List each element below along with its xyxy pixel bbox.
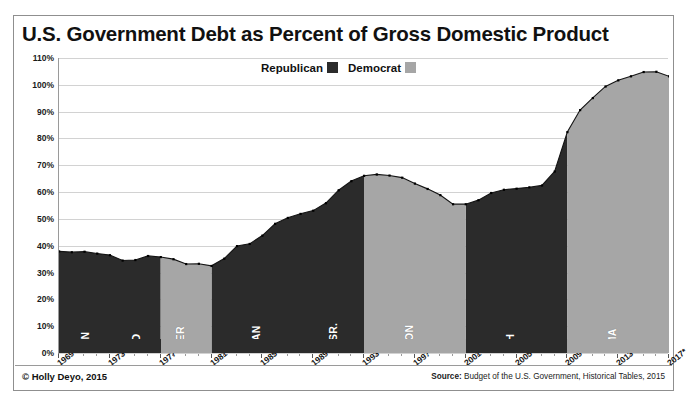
x-axis-minor-tick	[71, 354, 72, 356]
y-axis-tick-label: 60%	[14, 187, 54, 197]
data-point-marker	[122, 259, 124, 261]
data-point-marker	[566, 131, 568, 133]
y-axis-tick-label: 20%	[14, 294, 54, 304]
party-strip-democrat	[161, 339, 212, 353]
x-axis-minor-tick	[427, 354, 428, 356]
x-axis-minor-tick	[630, 354, 631, 356]
x-axis-minor-tick	[554, 354, 555, 356]
data-point-marker	[630, 75, 632, 77]
data-point-marker	[452, 203, 454, 205]
x-axis-minor-tick	[287, 354, 288, 356]
x-axis-minor-tick	[338, 354, 339, 356]
data-point-marker	[655, 71, 657, 73]
y-axis-tick-label: 50%	[14, 214, 54, 224]
x-axis-minor-tick	[350, 354, 351, 356]
data-point-marker	[604, 85, 606, 87]
x-axis-minor-tick	[655, 354, 656, 356]
party-strip-republican	[466, 339, 568, 353]
y-axis-tick-label: 40%	[14, 241, 54, 251]
data-point-marker	[427, 188, 429, 190]
data-point-marker	[147, 255, 149, 257]
data-point-marker	[617, 79, 619, 81]
data-point-marker	[388, 174, 390, 176]
x-axis-minor-tick	[490, 354, 491, 356]
data-point-marker	[465, 203, 467, 205]
data-point-marker	[325, 202, 327, 204]
data-point-marker	[312, 210, 314, 212]
data-point-marker	[211, 265, 213, 267]
y-axis-tick-label: 70%	[14, 160, 54, 170]
data-point-marker	[338, 189, 340, 191]
data-point-marker	[579, 109, 581, 111]
data-point-marker	[350, 180, 352, 182]
x-axis-minor-tick	[388, 354, 389, 356]
party-strip-republican	[123, 339, 161, 353]
source-label: Source:	[431, 372, 461, 381]
data-point-marker	[185, 263, 187, 265]
footer-divider	[15, 365, 672, 366]
data-point-marker	[490, 192, 492, 194]
data-point-marker	[223, 258, 225, 260]
data-point-marker	[414, 183, 416, 185]
data-point-marker	[554, 170, 556, 172]
x-axis-minor-tick	[96, 354, 97, 356]
y-axis-tick-label: 10%	[14, 321, 54, 331]
data-point-marker	[299, 213, 301, 215]
data-point-marker	[83, 251, 85, 253]
x-axis-minor-tick	[274, 354, 275, 356]
x-axis-minor-tick	[579, 354, 580, 356]
y-axis-tick-label: 0%	[14, 348, 54, 358]
data-point-marker	[516, 188, 518, 190]
data-point-marker	[261, 235, 263, 237]
data-point-marker	[668, 75, 669, 77]
x-axis-minor-tick	[236, 354, 237, 356]
copyright-text: © Holly Deyo, 2015	[22, 371, 107, 382]
data-point-marker	[249, 243, 251, 245]
data-point-marker	[643, 71, 645, 73]
data-point-marker	[172, 258, 174, 260]
x-axis-minor-tick	[83, 354, 84, 356]
data-point-marker	[376, 173, 378, 175]
party-strip-democrat	[364, 339, 466, 353]
x-axis-minor-tick	[541, 354, 542, 356]
x-axis-minor-tick	[223, 354, 224, 356]
data-point-marker	[592, 97, 594, 99]
party-strip-republican	[313, 339, 364, 353]
x-axis-minor-tick	[401, 354, 402, 356]
data-point-marker	[274, 223, 276, 225]
x-axis-minor-tick	[528, 354, 529, 356]
data-point-marker	[287, 217, 289, 219]
x-axis-minor-tick	[503, 354, 504, 356]
data-point-marker	[541, 184, 543, 186]
party-strip-republican	[212, 339, 314, 353]
data-point-marker	[363, 175, 365, 177]
data-point-marker	[71, 251, 73, 253]
x-axis-minor-tick	[477, 354, 478, 356]
data-point-marker	[96, 253, 98, 255]
y-axis-tick-label: 110%	[14, 53, 54, 63]
data-point-marker	[401, 177, 403, 179]
y-axis-tick-label: 80%	[14, 133, 54, 143]
x-axis-minor-tick	[299, 354, 300, 356]
x-axis-minor-tick	[439, 354, 440, 356]
x-axis-minor-tick	[604, 354, 605, 356]
x-axis-minor-tick	[452, 354, 453, 356]
chart-title: U.S. Government Debt as Percent of Gross…	[22, 22, 667, 46]
data-point-marker	[134, 259, 136, 261]
data-point-marker	[109, 254, 111, 256]
x-axis-minor-tick	[147, 354, 148, 356]
x-axis-minor-tick	[198, 354, 199, 356]
x-axis-minor-tick	[325, 354, 326, 356]
data-point-marker	[528, 186, 530, 188]
x-axis-minor-tick	[185, 354, 186, 356]
x-axis-minor-tick	[122, 354, 123, 356]
data-point-marker	[477, 199, 479, 201]
y-axis-tick-label: 30%	[14, 268, 54, 278]
party-strip-republican	[59, 339, 123, 353]
data-point-marker	[198, 263, 200, 265]
x-axis-minor-tick	[172, 354, 173, 356]
data-point-marker	[160, 256, 162, 258]
plot-area: NIXONFORDCARTERREAGANBUSH SR.CLINTONBUSH…	[58, 58, 668, 354]
data-point-marker	[236, 245, 238, 247]
source-text: Source: Budget of the U.S. Government, H…	[431, 372, 665, 381]
